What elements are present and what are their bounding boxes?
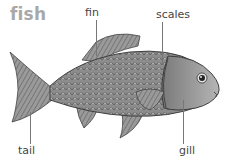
label-fin: fin — [85, 6, 99, 19]
tail-fin — [10, 52, 52, 122]
leader-line-gill — [183, 100, 184, 144]
fish-diagram: fish — [0, 0, 227, 164]
head — [162, 56, 219, 110]
label-tail: tail — [18, 144, 35, 157]
leader-line-tail — [30, 112, 31, 144]
fish-illustration — [0, 0, 227, 164]
label-gill: gill — [179, 144, 195, 157]
label-scales: scales — [156, 8, 190, 21]
leader-line-scales — [162, 22, 163, 64]
leader-line-fin — [96, 20, 97, 56]
